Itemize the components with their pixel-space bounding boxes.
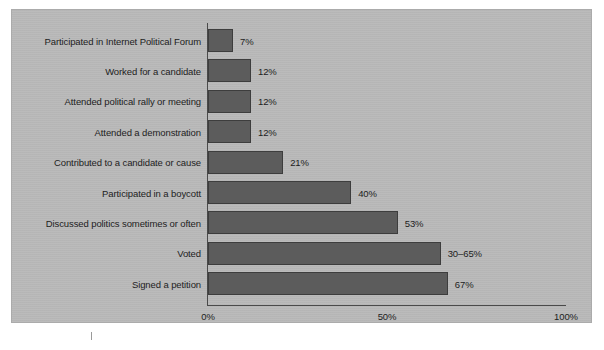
x-tick-label: 0%: [201, 311, 215, 322]
bar-value-label: 21%: [290, 157, 309, 168]
x-tick-label: 100%: [554, 311, 578, 322]
bar: 67%: [208, 272, 448, 295]
bar-row: Participated in a boycott40%: [12, 181, 591, 204]
bar-value-label: 53%: [405, 217, 424, 228]
bar-value-label: 40%: [358, 187, 377, 198]
bar: 7%: [208, 29, 233, 52]
bar-row: Voted30–65%: [12, 242, 591, 265]
bar: 53%: [208, 211, 398, 234]
category-label: Voted: [177, 248, 201, 259]
bar: 12%: [208, 120, 251, 143]
category-label: Worked for a candidate: [105, 65, 201, 76]
bar: 40%: [208, 181, 351, 204]
chart-panel: Participated in Internet Political Forum…: [12, 10, 591, 322]
category-label: Discussed politics sometimes or often: [46, 217, 201, 228]
category-label: Participated in Internet Political Forum: [44, 35, 201, 46]
page-tick-mark: [91, 332, 92, 340]
bar-fill: [208, 90, 251, 113]
category-label: Attended political rally or meeting: [65, 96, 201, 107]
bar-row: Signed a petition67%: [12, 272, 591, 295]
plot-area: Participated in Internet Political Forum…: [12, 10, 591, 322]
bar-value-label: 12%: [258, 126, 277, 137]
bar-row: Discussed politics sometimes or often53%: [12, 211, 591, 234]
bar: 12%: [208, 90, 251, 113]
bar-value-label: 67%: [455, 278, 474, 289]
bar-row: Attended a demonstration12%: [12, 120, 591, 143]
bar-row: Attended political rally or meeting12%: [12, 90, 591, 113]
bar: 12%: [208, 59, 251, 82]
x-axis-line: [207, 305, 566, 306]
bar: 21%: [208, 151, 283, 174]
category-label: Attended a demonstration: [95, 126, 201, 137]
bar-row: Contributed to a candidate or cause21%: [12, 151, 591, 174]
bar-value-label: 12%: [258, 65, 277, 76]
category-label: Participated in a boycott: [102, 187, 201, 198]
bar-row: Participated in Internet Political Forum…: [12, 29, 591, 52]
bar-fill: [208, 29, 233, 52]
bar-fill: [208, 151, 283, 174]
category-label: Signed a petition: [132, 278, 201, 289]
bar-fill: [208, 272, 448, 295]
x-tick-label: 50%: [378, 311, 397, 322]
bar-value-label: 7%: [240, 35, 254, 46]
bar-fill: [208, 120, 251, 143]
bar-fill: [208, 59, 251, 82]
bar-value-label: 30–65%: [448, 248, 482, 259]
category-label: Contributed to a candidate or cause: [54, 157, 201, 168]
bar: 30–65%: [208, 242, 441, 265]
bar-fill: [208, 181, 351, 204]
bar-value-label: 12%: [258, 96, 277, 107]
bar-fill: [208, 211, 398, 234]
bar-fill: [208, 242, 441, 265]
bar-row: Worked for a candidate12%: [12, 59, 591, 82]
